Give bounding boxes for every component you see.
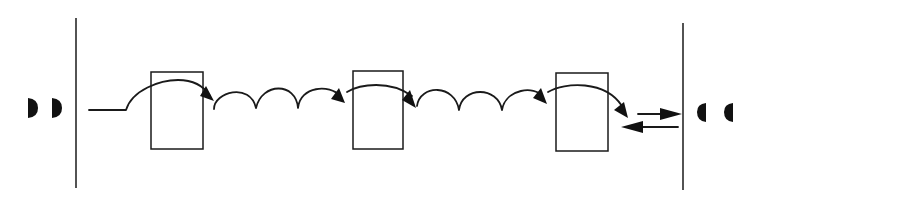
schematic-diagram [0, 0, 905, 210]
arrowhead-3-icon [402, 90, 416, 108]
left-half-disc-2-icon [52, 98, 62, 118]
right-half-disc-2-icon [724, 103, 733, 122]
arrowhead-5-icon [614, 102, 628, 118]
return-arrowhead-icon [621, 121, 643, 133]
forward-arrowhead-icon [660, 108, 682, 120]
arc-box-3-path [548, 85, 622, 106]
box-2 [353, 71, 403, 149]
input-lead-path [89, 80, 210, 110]
arrowhead-4-icon [533, 88, 547, 104]
right-half-disc-1-icon [697, 103, 706, 122]
diagram-canvas [0, 0, 905, 210]
loops-2-path [417, 90, 542, 110]
loops-1-path [214, 89, 340, 110]
left-half-disc-1-icon [28, 98, 38, 118]
